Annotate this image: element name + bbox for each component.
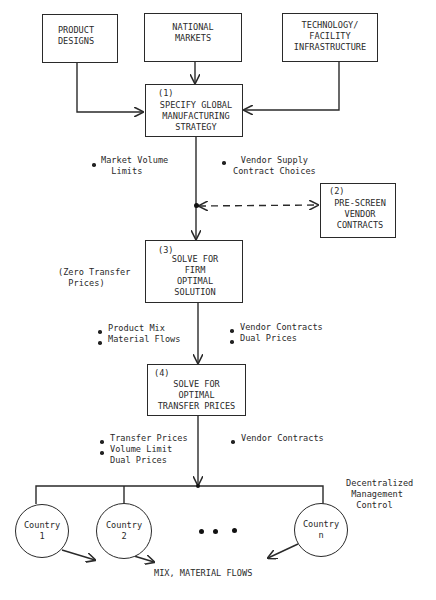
technology-infrastructure-label: TECHNOLOGY/ FACILITY INFRASTRUCTURE <box>283 20 377 53</box>
product-designs-label: PRODUCT DESIGNS <box>35 25 117 47</box>
bullet <box>100 440 104 444</box>
step4-label: SOLVE FOR OPTIMAL TRANSFER PRICES <box>148 379 245 412</box>
national-markets-box: NATIONAL MARKETS <box>144 13 242 62</box>
vendor-supply-contract-label: Vendor Supply Contract Choices <box>233 155 316 177</box>
mix-material-flows-label: MIX, MATERIAL FLOWS <box>154 568 252 579</box>
step1-box: (1) SPECIFY GLOBAL MANUFACTURING STRATEG… <box>145 84 243 137</box>
national-markets-label: NATIONAL MARKETS <box>145 22 241 44</box>
market-volume-limits-label: Market Volume Limits <box>101 155 168 177</box>
step2-box: (2) PRE-SCREEN VENDOR CONTRACTS <box>320 183 396 238</box>
bullet <box>230 329 234 333</box>
bullet <box>231 440 235 444</box>
junction-dot <box>194 203 199 208</box>
product-mix-label: Product Mix <box>108 323 165 334</box>
bullet <box>98 341 102 345</box>
country-1-node: Country 1 <box>15 504 69 558</box>
decentralized-control-label: Decentralized Management Control <box>346 478 413 511</box>
vendor-contracts-label-2: Vendor Contracts <box>241 433 324 444</box>
step1-label: SPECIFY GLOBAL MANUFACTURING STRATEGY <box>150 100 242 133</box>
step2-label: PRE-SCREEN VENDOR CONTRACTS <box>325 198 395 231</box>
junction-dot <box>196 484 200 488</box>
bullet <box>100 451 104 455</box>
ellipsis-dot <box>199 529 204 534</box>
ellipsis-dot <box>213 529 218 534</box>
country-2-node: Country 2 <box>96 503 152 559</box>
country-n-node: Country n <box>294 503 348 557</box>
vendor-contracts-label: Vendor Contracts <box>240 322 323 333</box>
volume-limit-dual-prices-label: Volume Limit Dual Prices <box>110 444 172 466</box>
zero-transfer-prices-label: (Zero Transfer Prices) <box>58 267 130 289</box>
ellipsis-dot <box>232 528 237 533</box>
product-designs-box: PRODUCT DESIGNS <box>42 14 118 63</box>
step1-number: (1) <box>158 88 174 99</box>
transfer-prices-label: Transfer Prices <box>110 433 188 444</box>
step2-number: (2) <box>329 186 345 197</box>
dual-prices-label: Dual Prices <box>240 333 297 344</box>
bullet <box>230 340 234 344</box>
bullet <box>222 161 226 165</box>
step4-number: (4) <box>154 368 170 379</box>
step3-box: (3) SOLVE FOR FIRM OPTIMAL SOLUTION <box>145 240 243 303</box>
step4-box: (4) SOLVE FOR OPTIMAL TRANSFER PRICES <box>147 364 246 416</box>
material-flows-label: Material Flows <box>108 334 180 345</box>
step3-label: SOLVE FOR FIRM OPTIMAL SOLUTION <box>148 254 242 298</box>
bullet <box>98 330 102 334</box>
technology-infrastructure-box: TECHNOLOGY/ FACILITY INFRASTRUCTURE <box>282 13 378 62</box>
bullet <box>92 163 96 167</box>
